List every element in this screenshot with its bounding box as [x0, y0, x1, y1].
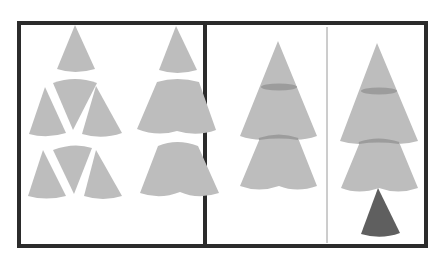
top-sector [57, 25, 95, 72]
top-sector [159, 26, 197, 73]
step-4-tree [340, 43, 418, 237]
lower-tier [240, 135, 317, 190]
lower-tier [341, 139, 418, 192]
trunk-sector [361, 188, 400, 237]
tree-assembly-diagram [0, 0, 442, 266]
step-3-stacked [240, 41, 317, 190]
bottom-tier [140, 142, 219, 196]
sector-right-2 [84, 150, 122, 199]
step-1-pieces [28, 25, 122, 199]
seam-1 [261, 84, 297, 91]
seam-1 [361, 88, 397, 95]
